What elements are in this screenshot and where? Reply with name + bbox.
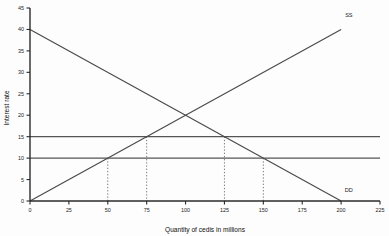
x-tick-label-200: 200: [337, 207, 346, 213]
y-tick-label-0: 0: [21, 198, 24, 204]
x-tick-label-150: 150: [259, 207, 268, 213]
y-tick-label-45: 45: [18, 5, 24, 11]
x-tick-label-225: 225: [376, 207, 385, 213]
x-tick-label-25: 25: [66, 207, 72, 213]
y-tick-label-30: 30: [18, 69, 24, 75]
y-tick-label-20: 20: [18, 112, 24, 118]
y-tick-label-25: 25: [18, 91, 24, 97]
x-tick-label-175: 175: [298, 207, 307, 213]
y-tick-label-15: 15: [18, 134, 24, 140]
x-tick-label-125: 125: [220, 207, 229, 213]
y-tick-label-35: 35: [18, 48, 24, 54]
x-tick-label-75: 75: [144, 207, 150, 213]
x-tick-label-0: 0: [29, 207, 32, 213]
x-tick-label-100: 100: [181, 207, 190, 213]
x-tick-label-50: 50: [105, 207, 111, 213]
y-tick-label-40: 40: [18, 26, 24, 32]
curve-label-SS: SS: [345, 12, 353, 18]
y-tick-label-10: 10: [18, 155, 24, 161]
y-tick-label-5: 5: [21, 177, 24, 183]
economics-supply-demand-chart: SSDD 02550751001251501752002250510152025…: [0, 0, 389, 236]
x-axis-title: Quantity of cedis in millions: [165, 226, 246, 234]
curve-label-DD: DD: [345, 187, 353, 193]
y-axis-title: Interest rate: [3, 90, 10, 126]
